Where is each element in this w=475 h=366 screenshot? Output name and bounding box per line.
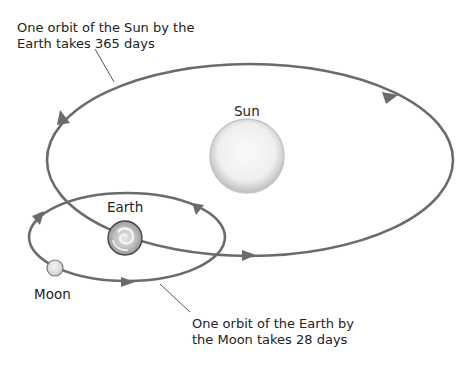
earth-icon <box>108 221 142 255</box>
sun-icon <box>210 119 284 193</box>
earth-orbit-annotation-line-2: Earth takes 365 days <box>17 36 194 52</box>
moon-orbit-annotation: One orbit of the Earth by the Moon takes… <box>192 316 354 348</box>
orbit-diagram <box>0 0 475 366</box>
arrow-icon <box>242 250 256 261</box>
arrow-icon <box>121 277 135 287</box>
earth-label: Earth <box>107 199 143 215</box>
moon-icon <box>47 260 63 276</box>
moon-orbit-annotation-line-1: One orbit of the Earth by <box>192 316 354 332</box>
moon-orbit-annotation-line-2: the Moon takes 28 days <box>192 332 354 348</box>
leader-line-moon-orbit <box>160 284 190 312</box>
earth-orbit-annotation-line-1: One orbit of the Sun by the <box>17 20 194 36</box>
sun-label: Sun <box>234 103 260 119</box>
leader-line-earth-orbit <box>95 49 114 82</box>
earth-orbit-annotation: One orbit of the Sun by the Earth takes … <box>17 20 194 52</box>
moon-label: Moon <box>34 286 71 302</box>
